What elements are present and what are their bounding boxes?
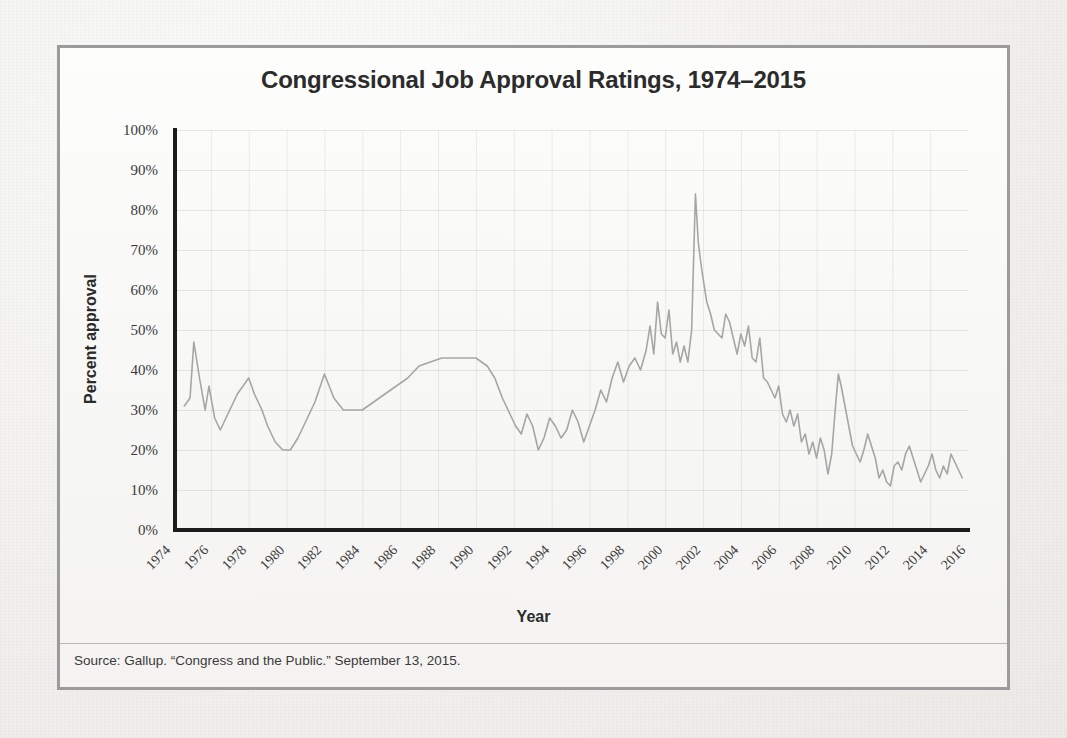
x-tick-label: 2002 — [673, 542, 704, 573]
source-divider — [60, 643, 1007, 644]
x-axis-ticklabels: 1974197619781980198219841986198819901992… — [173, 536, 968, 606]
y-tick-label: 0% — [138, 522, 158, 539]
x-tick-label: 2006 — [749, 542, 780, 573]
chart-title: Congressional Job Approval Ratings, 1974… — [60, 66, 1007, 94]
x-tick-label: 1994 — [522, 542, 553, 573]
y-tick-label: 60% — [131, 282, 159, 299]
y-tick-label: 30% — [131, 402, 159, 419]
x-tick-label: 2004 — [711, 542, 742, 573]
figure-frame: Congressional Job Approval Ratings, 1974… — [57, 45, 1010, 690]
x-tick-label: 2014 — [900, 542, 931, 573]
x-tick-label: 2012 — [862, 542, 893, 573]
x-tick-label: 1976 — [181, 542, 212, 573]
x-tick-label: 2016 — [938, 542, 969, 573]
y-tick-label: 20% — [131, 442, 159, 459]
x-tick-label: 1978 — [219, 542, 250, 573]
figure-inner: Congressional Job Approval Ratings, 1974… — [60, 48, 1007, 687]
data-series-line — [173, 130, 968, 530]
x-tick-label: 1990 — [446, 542, 477, 573]
y-tick-label: 80% — [131, 202, 159, 219]
plot-area — [173, 130, 968, 530]
y-axis-ticklabels: 100%90%80%70%60%50%40%30%20%10%0% — [60, 130, 166, 530]
x-tick-label: 2010 — [824, 542, 855, 573]
y-tick-label: 10% — [131, 482, 159, 499]
y-axis-line — [173, 128, 177, 532]
x-tick-label: 1984 — [332, 542, 363, 573]
y-tick-label: 90% — [131, 162, 159, 179]
x-tick-label: 1980 — [257, 542, 288, 573]
x-tick-label: 1974 — [143, 542, 174, 573]
x-tick-label: 2000 — [635, 542, 666, 573]
x-tick-label: 1986 — [370, 542, 401, 573]
x-tick-label: 1998 — [597, 542, 628, 573]
y-tick-label: 100% — [123, 122, 158, 139]
y-tick-label: 50% — [131, 322, 159, 339]
x-tick-label: 1988 — [408, 542, 439, 573]
source-note: Source: Gallup. “Congress and the Public… — [74, 653, 460, 668]
y-tick-label: 70% — [131, 242, 159, 259]
x-tick-label: 1992 — [484, 542, 515, 573]
y-axis-title: Percent approval — [82, 224, 100, 454]
x-tick-label: 2008 — [787, 542, 818, 573]
x-axis-title: Year — [60, 608, 1007, 626]
x-tick-label: 1996 — [559, 542, 590, 573]
x-axis-line — [173, 528, 970, 532]
y-tick-label: 40% — [131, 362, 159, 379]
x-tick-label: 1982 — [294, 542, 325, 573]
